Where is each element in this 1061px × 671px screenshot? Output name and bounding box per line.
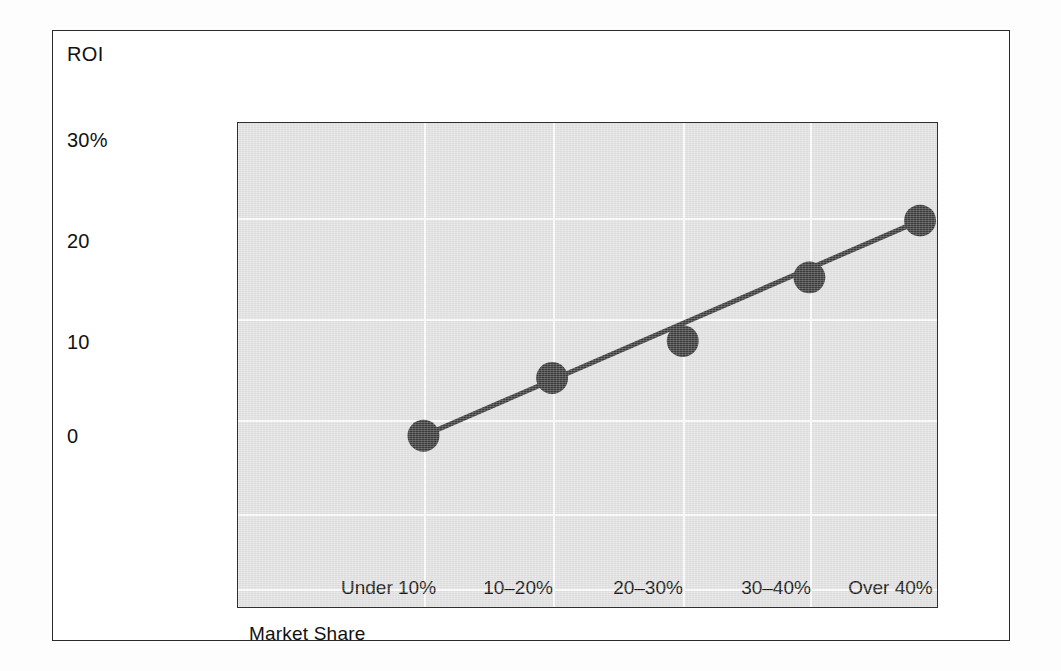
data-point-20-30[interactable] xyxy=(667,325,699,357)
plot-area: Under 10% 10–20% 20–30% 30–40% Over 40% xyxy=(237,122,938,608)
data-point-30-40[interactable] xyxy=(793,261,825,293)
data-point-under-10[interactable] xyxy=(408,420,440,452)
y-tick-label-20: 20 xyxy=(67,230,90,253)
y-tick-label-0: 0 xyxy=(67,425,78,448)
y-tick-label-30: 30% xyxy=(67,129,108,152)
x-tick-label-30-40: 30–40% xyxy=(711,577,841,599)
data-point-10-20[interactable] xyxy=(536,362,568,394)
trend-line xyxy=(423,221,920,436)
figure-outer-frame: ROI 0 10 20 30% Market Share xyxy=(52,30,1010,641)
x-axis-title: Market Share xyxy=(249,623,365,645)
y-tick-label-10: 10 xyxy=(67,331,90,354)
data-series-layer xyxy=(238,123,937,607)
x-tick-label-10-20: 10–20% xyxy=(453,577,583,599)
x-tick-label-under-10: Under 10% xyxy=(316,577,461,599)
x-tick-label-20-30: 20–30% xyxy=(583,577,713,599)
y-axis-title: ROI xyxy=(67,43,104,66)
x-tick-label-over-40: Over 40% xyxy=(828,577,938,599)
data-point-over-40[interactable] xyxy=(904,205,936,237)
figure-root: ROI 0 10 20 30% Market Share xyxy=(0,0,1061,671)
